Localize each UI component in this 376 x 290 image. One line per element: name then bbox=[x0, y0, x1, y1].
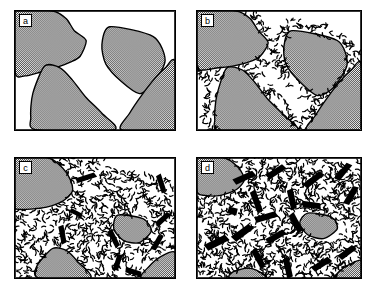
reaction-dash bbox=[118, 210, 119, 213]
reaction-dash bbox=[138, 193, 142, 194]
reaction-dash bbox=[346, 229, 347, 232]
panel-a-canvas bbox=[15, 11, 175, 130]
panel-d-label: d bbox=[201, 161, 214, 174]
reaction-dash bbox=[330, 214, 331, 218]
panel-b-canvas bbox=[197, 11, 361, 130]
reaction-dash bbox=[252, 227, 256, 228]
reaction-dash bbox=[119, 248, 120, 252]
reaction-dash bbox=[22, 210, 25, 211]
reaction-dash bbox=[124, 213, 128, 214]
reaction-dash bbox=[27, 266, 28, 270]
reaction-dash bbox=[203, 218, 204, 221]
reaction-dash bbox=[295, 167, 296, 171]
panel-c-canvas bbox=[15, 158, 175, 278]
panel-a: a bbox=[14, 10, 176, 131]
reaction-dash bbox=[112, 272, 113, 276]
reaction-dash bbox=[97, 196, 101, 197]
reaction-dash bbox=[316, 184, 317, 188]
reaction-dash bbox=[134, 249, 138, 250]
reaction-dash bbox=[210, 68, 211, 71]
reaction-dash bbox=[285, 214, 286, 218]
reaction-dash bbox=[132, 209, 133, 212]
reaction-dash bbox=[231, 227, 234, 228]
panel-c: c bbox=[14, 157, 176, 279]
reaction-dash bbox=[170, 200, 171, 204]
reaction-dash bbox=[310, 271, 311, 274]
reaction-dash bbox=[66, 206, 67, 210]
reaction-dash bbox=[323, 93, 327, 94]
reaction-dash bbox=[136, 185, 137, 189]
reaction-dash bbox=[215, 213, 219, 214]
reaction-dash bbox=[216, 71, 217, 74]
reaction-dash bbox=[285, 229, 289, 230]
reaction-dash bbox=[199, 253, 204, 254]
reaction-dash bbox=[107, 223, 111, 224]
reaction-dash bbox=[270, 88, 273, 89]
reaction-dash bbox=[25, 273, 29, 274]
reaction-dash bbox=[339, 234, 342, 235]
panel-d: d bbox=[196, 157, 362, 279]
reaction-dash bbox=[240, 215, 241, 218]
reaction-dash bbox=[269, 219, 270, 222]
reaction-dash bbox=[83, 241, 84, 244]
reaction-dash bbox=[290, 255, 291, 259]
reaction-dash bbox=[262, 175, 265, 176]
reaction-dash bbox=[31, 260, 32, 263]
reaction-dash bbox=[142, 252, 143, 255]
reaction-dash bbox=[221, 215, 224, 216]
reaction-dash bbox=[220, 232, 224, 233]
reaction-dash bbox=[60, 216, 61, 219]
panel-a-label: a bbox=[19, 14, 32, 27]
figure-container: a b c d bbox=[0, 0, 376, 290]
panel-b: b bbox=[196, 10, 362, 131]
panel-c-label: c bbox=[19, 161, 32, 174]
reaction-dash bbox=[57, 209, 58, 213]
reaction-dash bbox=[114, 179, 115, 182]
reaction-dash bbox=[320, 244, 323, 245]
panel-b-label: b bbox=[201, 14, 214, 27]
reaction-dash bbox=[354, 225, 357, 226]
reaction-dash bbox=[203, 271, 204, 274]
reaction-dash bbox=[306, 194, 307, 198]
reaction-dash bbox=[304, 211, 308, 212]
panel-d-canvas bbox=[197, 158, 361, 278]
reaction-dash bbox=[304, 267, 305, 270]
reaction-dash bbox=[19, 247, 24, 248]
reaction-dash bbox=[344, 70, 345, 74]
reaction-dash bbox=[312, 254, 313, 259]
reaction-dash bbox=[54, 237, 58, 238]
reaction-dash bbox=[87, 258, 88, 261]
reaction-dash bbox=[216, 261, 217, 264]
reaction-dash bbox=[82, 251, 83, 254]
reaction-dash bbox=[346, 218, 349, 219]
reaction-dash bbox=[327, 208, 328, 212]
reaction-dash bbox=[221, 196, 222, 199]
